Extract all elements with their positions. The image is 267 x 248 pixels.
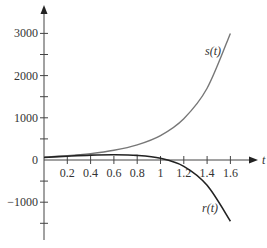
x-axis-arrow-icon: [249, 157, 258, 164]
r-curve-label: r(t): [202, 201, 218, 215]
x-tick-label: 1: [158, 166, 164, 180]
x-tick-label: 0.2: [60, 166, 75, 180]
y-axis-arrow-icon: [41, 5, 48, 14]
y-tick-label: 0: [32, 153, 38, 167]
y-tick-label: 2000: [14, 69, 38, 83]
x-tick-label: 0.6: [106, 166, 121, 180]
s-curve-label: s(t): [205, 44, 221, 58]
s-curve: [44, 33, 230, 157]
y-tick-label: 3000: [14, 26, 38, 40]
chart: t 3000200010000−1000 0.20.40.60.811.21.4…: [0, 0, 267, 248]
x-tick-label: 1.6: [223, 166, 238, 180]
x-axis-label: t: [262, 153, 266, 167]
y-tick-label: 1000: [14, 111, 38, 125]
x-tick-label: 0.8: [130, 166, 145, 180]
x-tick-label: 0.4: [83, 166, 98, 180]
y-ticks: 3000200010000−1000: [7, 26, 48, 223]
x-tick-label: 1.4: [200, 166, 215, 180]
y-tick-label: −1000: [7, 195, 38, 209]
x-tick-label: 1.2: [176, 166, 191, 180]
